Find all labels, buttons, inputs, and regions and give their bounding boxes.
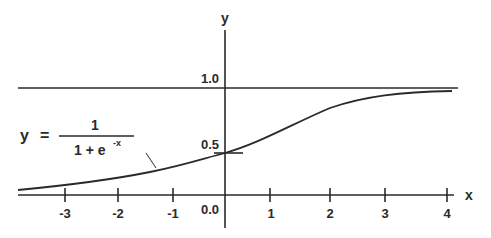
y-tick-label-0.5: 0.5 <box>201 137 219 152</box>
annotation-leader <box>146 153 156 168</box>
formula-exponent: -x <box>113 138 121 148</box>
formula-lhs: y <box>20 127 29 144</box>
formula-numerator: 1 <box>91 117 99 133</box>
x-tick-label: 2 <box>326 206 333 221</box>
x-tick-label: -2 <box>112 206 124 221</box>
sigmoid-curve <box>18 91 452 190</box>
x-tick-label: 1 <box>267 206 274 221</box>
x-tick-label: 4 <box>443 206 451 221</box>
y-axis-label: y <box>221 10 229 26</box>
x-tick-label: -3 <box>59 206 71 221</box>
x-axis-label: x <box>465 187 473 203</box>
formula-annotation: y = 1 1 + e -x <box>20 117 134 158</box>
x-tick-label: 3 <box>381 206 388 221</box>
y-tick-label-1: 1.0 <box>201 71 219 86</box>
formula-denominator: 1 + e <box>74 142 106 158</box>
sigmoid-chart: -3 -2 -1 1 2 3 4 0.0 0.5 1.0 y x y = 1 1… <box>0 0 491 238</box>
y-tick-label-0: 0.0 <box>201 202 219 217</box>
x-tick-label: -1 <box>167 206 179 221</box>
formula-equals: = <box>40 127 49 144</box>
